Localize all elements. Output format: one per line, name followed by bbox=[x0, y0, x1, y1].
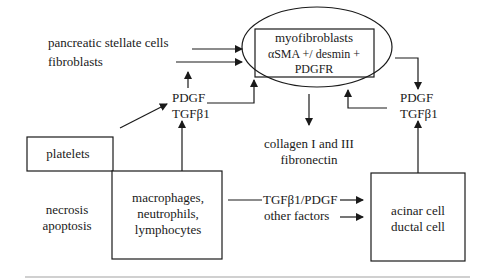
left-factors-to-myofibroblasts-arrow bbox=[207, 80, 254, 103]
lymphocytes-label: lymphocytes bbox=[135, 222, 201, 237]
myofibroblasts-label: myofibroblasts bbox=[275, 30, 353, 45]
fibronectin-label: fibronectin bbox=[280, 152, 338, 167]
right-tgfb1-label: TGFβ1 bbox=[400, 106, 438, 121]
apoptosis-label: apoptosis bbox=[42, 218, 91, 233]
fibroblasts-label: fibroblasts bbox=[48, 54, 103, 69]
inflammatory-cells-node: macrophages, neutrophils, lymphocytes bbox=[112, 171, 222, 259]
acinar-cell-label: acinar cell bbox=[391, 203, 445, 218]
right-pdgf-label: PDGF bbox=[400, 90, 433, 105]
fibrosis-pathway-diagram: myofibroblasts αSMA +/ desmin + PDGFR pa… bbox=[0, 0, 484, 278]
tgfb1-pdgf-label: TGFβ1/PDGF bbox=[263, 192, 338, 207]
right-factors-to-myofibroblasts-arrow bbox=[348, 90, 387, 108]
macrophages-label: macrophages, bbox=[132, 190, 204, 205]
platelets-node: platelets bbox=[27, 137, 113, 171]
necrosis-label: necrosis bbox=[46, 202, 89, 217]
myofibroblasts-receptor-label: PDGFR bbox=[295, 62, 334, 76]
myofibroblasts-markers-label: αSMA +/ desmin + bbox=[268, 47, 360, 61]
ductal-cell-label: ductal cell bbox=[391, 219, 445, 234]
parenchyma-node: acinar cell ductal cell bbox=[371, 173, 465, 261]
platelets-to-factors-arrow bbox=[120, 104, 167, 128]
platelets-label: platelets bbox=[46, 146, 89, 161]
neutrophils-label: neutrophils, bbox=[137, 206, 199, 221]
other-factors-label: other factors bbox=[264, 208, 329, 223]
collagen-label: collagen I and III bbox=[264, 136, 354, 151]
left-tgfb1-label: TGFβ1 bbox=[172, 106, 210, 121]
stellate-cells-label: pancreatic stellate cells bbox=[48, 35, 169, 50]
myofibroblasts-node: myofibroblasts αSMA +/ desmin + PDGFR bbox=[242, 7, 392, 87]
myofibroblasts-to-right-factors-arrow bbox=[395, 58, 418, 89]
left-pdgf-label: PDGF bbox=[172, 90, 205, 105]
